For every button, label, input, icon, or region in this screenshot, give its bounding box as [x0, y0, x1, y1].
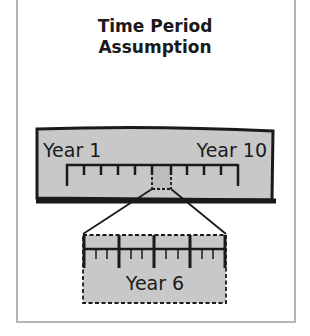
- zoom-box: Year 6: [83, 235, 226, 303]
- start-year-label: Year 1: [42, 139, 101, 161]
- end-year-label: Year 10: [196, 139, 267, 161]
- timeline-diagram: Year 1 Year 10: [0, 0, 310, 336]
- zoom-year-label: Year 6: [125, 272, 184, 294]
- highlighted-interval: [152, 165, 171, 189]
